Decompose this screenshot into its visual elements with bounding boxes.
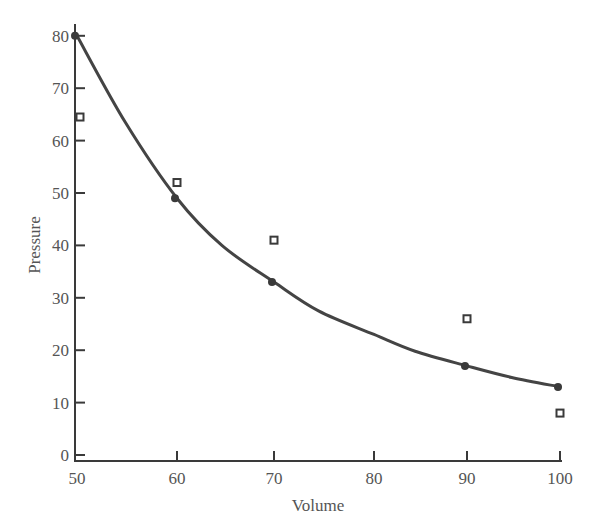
x-axis-title: Volume [292, 496, 345, 515]
y-tick-label: 40 [52, 236, 69, 255]
filled-circle-marker [554, 383, 562, 391]
open-square-marker [77, 114, 84, 121]
y-tick-label: 50 [52, 184, 69, 203]
y-tick-label: 30 [52, 289, 69, 308]
filled-circle-marker [71, 32, 79, 40]
open-square-marker [464, 315, 471, 322]
y-axis-ticks: 01020304050607080 [52, 27, 85, 465]
y-tick-label: 20 [52, 341, 69, 360]
curve-line [77, 36, 560, 387]
open-square-marker [557, 410, 564, 417]
filled-circle-markers [71, 32, 562, 391]
filled-circle-marker [461, 362, 469, 370]
y-tick-label: 60 [52, 132, 69, 151]
y-tick-label: 70 [52, 79, 69, 98]
y-tick-label: 80 [52, 27, 69, 46]
y-tick-label: 10 [52, 394, 69, 413]
x-tick-label: 80 [366, 469, 383, 488]
x-tick-label: 70 [266, 469, 283, 488]
y-tick-label: 0 [61, 446, 70, 465]
filled-circle-marker [268, 278, 276, 286]
y-axis-title: Pressure [25, 216, 44, 274]
x-tick-label: 50 [69, 469, 86, 488]
open-square-marker [271, 237, 278, 244]
fitted-curve [77, 36, 560, 387]
x-tick-label: 100 [547, 469, 573, 488]
filled-circle-marker [171, 194, 179, 202]
pressure-volume-chart: 01020304050607080 5060708090100 Volume P… [0, 0, 591, 531]
x-tick-label: 60 [169, 469, 186, 488]
axes [74, 24, 562, 462]
x-axis-ticks: 5060708090100 [69, 451, 573, 488]
open-square-marker [174, 179, 181, 186]
x-tick-label: 90 [459, 469, 476, 488]
